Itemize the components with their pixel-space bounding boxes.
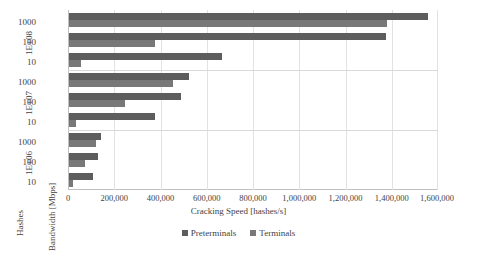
bar-preterminals-1E+06-10[interactable] [69, 173, 93, 180]
bar-terminals-1E+07-1000[interactable] [69, 80, 173, 87]
bar-terminals-1E+07-100[interactable] [69, 100, 125, 107]
bar-preterminals-1E+08-1000[interactable] [69, 13, 428, 20]
bar-terminals-1E+08-1000[interactable] [69, 20, 387, 27]
bar-preterminals-1E+07-100[interactable] [69, 93, 181, 100]
xtick-label-200000: 200,000 [100, 193, 128, 203]
bar-preterminals-1E+08-100[interactable] [69, 33, 386, 40]
legend-swatch-preterminals-icon [182, 230, 188, 236]
category-label-1e07-1000: 1000 [0, 78, 36, 87]
category-label-1e08-10: 10 [0, 58, 36, 67]
x-axis-title: Cracking Speed [hashes/s] [0, 206, 477, 216]
category-label-1e08-1000: 1000 [0, 18, 36, 27]
y-axis-title-outer: Hashes [15, 198, 25, 248]
bar-terminals-1E+07-10[interactable] [69, 120, 76, 127]
xtick-label-400000: 400,000 [147, 193, 175, 203]
legend-label-preterminals: Preterminals [191, 228, 237, 238]
bars-layer [69, 10, 438, 190]
plot-area [68, 10, 438, 190]
category-label-1e06-10: 10 [0, 178, 36, 187]
category-label-1e07-10: 10 [0, 118, 36, 127]
legend-label-terminals: Terminals [259, 228, 295, 238]
xtick-label-1200000: 1,200,000 [329, 193, 363, 203]
legend: Preterminals Terminals [0, 228, 477, 238]
bar-preterminals-1E+07-10[interactable] [69, 113, 155, 120]
bar-terminals-1E+08-10[interactable] [69, 60, 81, 67]
bar-terminals-1E+06-1000[interactable] [69, 140, 96, 147]
bar-preterminals-1E+06-1000[interactable] [69, 133, 101, 140]
legend-item-terminals[interactable]: Terminals [250, 228, 295, 238]
category-label-1e08-100: 100 [0, 38, 36, 47]
legend-item-preterminals[interactable]: Preterminals [182, 228, 237, 238]
bar-preterminals-1E+08-10[interactable] [69, 53, 222, 60]
bar-terminals-1E+06-100[interactable] [69, 160, 85, 167]
y-axis-title-inner: Bandwidth [Mbps] [47, 195, 57, 251]
xtick-label-1600000: 1,600,000 [420, 193, 454, 203]
category-label-1e07-100: 100 [0, 98, 36, 107]
legend-swatch-terminals-icon [250, 230, 256, 236]
cracking-speed-bar-chart: 1E+08 1E+07 1E+06 1000 100 10 1000 100 1… [0, 0, 477, 261]
xtick-label-1400000: 1,400,000 [375, 193, 409, 203]
xtick-label-600000: 600,000 [193, 193, 221, 203]
bar-terminals-1E+06-10[interactable] [69, 180, 73, 187]
xtick-label-0: 0 [66, 193, 70, 203]
bar-preterminals-1E+06-100[interactable] [69, 153, 98, 160]
bar-preterminals-1E+07-1000[interactable] [69, 73, 189, 80]
xtick-label-800000: 800,000 [239, 193, 267, 203]
category-label-1e06-100: 100 [0, 158, 36, 167]
bar-terminals-1E+08-100[interactable] [69, 40, 155, 47]
xtick-label-1000000: 1,000,000 [282, 193, 316, 203]
category-label-1e06-1000: 1000 [0, 138, 36, 147]
